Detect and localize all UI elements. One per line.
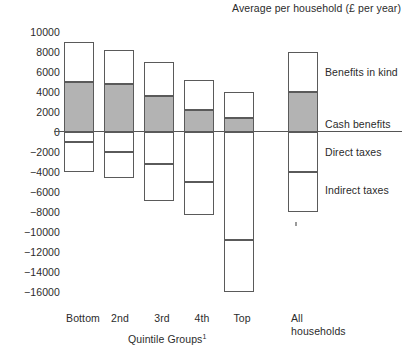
page-speck	[295, 222, 297, 226]
x-axis-label-top: Top	[226, 312, 258, 324]
x-axis-label-all-households: Allhouseholds	[291, 312, 351, 338]
legend-label-cash-benefits: Cash benefits	[325, 118, 391, 130]
bar-segment-indirect-taxes[interactable]	[144, 164, 174, 201]
y-tick-label: 4000	[0, 86, 60, 98]
y-tick-label: −10000	[0, 226, 60, 238]
bar-segment-cash-benefits[interactable]	[288, 92, 318, 132]
bar-segment-direct-taxes[interactable]	[288, 132, 318, 172]
y-tick-label: 10000	[0, 26, 60, 38]
y-tick-label: −8000	[0, 206, 60, 218]
bar-segment-direct-taxes[interactable]	[104, 132, 134, 152]
y-axis-labels: 1000080006000400020000−2000−4000−6000−80…	[0, 0, 60, 353]
bar-segment-cash-benefits[interactable]	[184, 110, 214, 132]
y-tick-label: 0	[0, 126, 60, 138]
bar-segment-indirect-taxes[interactable]	[64, 142, 94, 172]
bar-segment-direct-taxes[interactable]	[224, 132, 254, 240]
y-tick-label: −12000	[0, 246, 60, 258]
x-axis-title: Quintile Groups1	[128, 333, 206, 345]
y-tick-label: −14000	[0, 266, 60, 278]
bar-segment-indirect-taxes[interactable]	[224, 240, 254, 292]
x-axis-label-line: households	[291, 325, 351, 338]
x-axis-title-text: Quintile Groups	[128, 333, 202, 345]
bar-segment-direct-taxes[interactable]	[184, 132, 214, 182]
bar-segment-cash-benefits[interactable]	[144, 96, 174, 132]
bar-segment-indirect-taxes[interactable]	[104, 152, 134, 178]
x-axis-title-footnote: 1	[202, 333, 206, 340]
bar-segment-direct-taxes[interactable]	[64, 132, 94, 142]
bar-segment-indirect-taxes[interactable]	[288, 172, 318, 212]
legend-label-indirect-taxes: Indirect taxes	[325, 184, 389, 196]
y-tick-label: −16000	[0, 286, 60, 298]
bar-segment-benefits-in-kind[interactable]	[64, 42, 94, 82]
y-tick-label: −4000	[0, 166, 60, 178]
bar-segment-benefits-in-kind[interactable]	[104, 50, 134, 84]
bar-segment-benefits-in-kind[interactable]	[224, 92, 254, 118]
x-axis-label-bottom: Bottom	[62, 312, 104, 324]
bar-segment-benefits-in-kind[interactable]	[184, 80, 214, 110]
bar-segment-indirect-taxes[interactable]	[184, 182, 214, 215]
chart-container: Average per household (£ per year) 10000…	[0, 0, 410, 353]
x-axis-label-3rd: 3rd	[146, 312, 178, 324]
bar-segment-direct-taxes[interactable]	[144, 132, 174, 164]
bar-segment-benefits-in-kind[interactable]	[288, 52, 318, 92]
x-axis-label-line: All	[291, 312, 351, 325]
y-tick-label: −2000	[0, 146, 60, 158]
y-tick-label: 8000	[0, 46, 60, 58]
x-axis-label-4th: 4th	[186, 312, 218, 324]
legend-label-benefits-in-kind: Benefits in kind	[325, 66, 398, 78]
x-axis-label-2nd: 2nd	[104, 312, 136, 324]
y-tick-label: 6000	[0, 66, 60, 78]
bar-segment-cash-benefits[interactable]	[104, 84, 134, 132]
bar-segment-cash-benefits[interactable]	[224, 118, 254, 132]
bar-segment-cash-benefits[interactable]	[64, 82, 94, 132]
y-tick-label: −6000	[0, 186, 60, 198]
legend-label-direct-taxes: Direct taxes	[325, 146, 382, 158]
plot-area	[62, 0, 410, 353]
bar-segment-benefits-in-kind[interactable]	[144, 62, 174, 96]
y-tick-label: 2000	[0, 106, 60, 118]
